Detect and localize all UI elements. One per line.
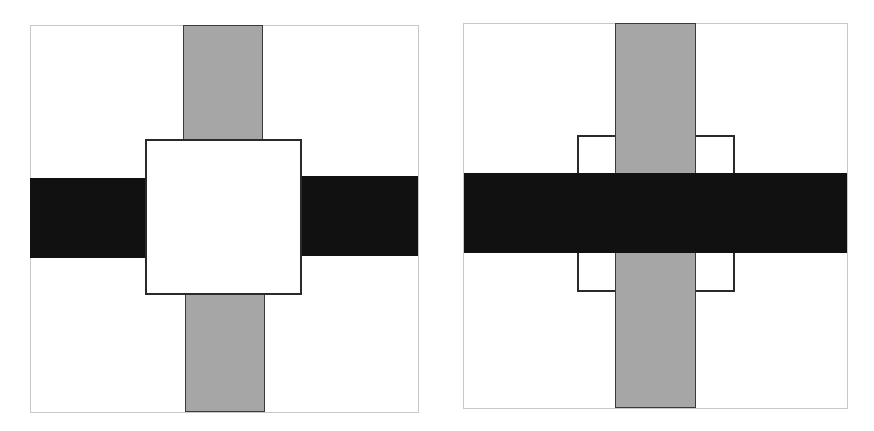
left-vertical-bar-bottom — [185, 292, 265, 412]
right-horizontal-bar — [464, 173, 847, 253]
left-horizontal-bar-right — [299, 176, 418, 256]
left-square — [145, 139, 302, 295]
left-vertical-bar-top — [183, 25, 263, 142]
left-horizontal-bar-left — [30, 178, 148, 258]
